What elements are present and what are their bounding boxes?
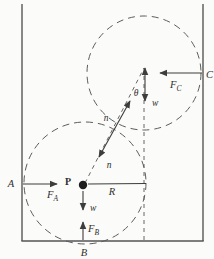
upper-weight-label: w	[152, 98, 159, 108]
normal-lower-label: n	[107, 160, 112, 170]
force-A-label: FA	[46, 189, 58, 203]
diagram-canvas: n n w θ FC C FA A P R w FB B	[0, 0, 214, 259]
lower-weight-label: w	[90, 203, 97, 213]
angle-theta-label: θ	[134, 88, 139, 98]
point-P-label: P	[65, 176, 71, 187]
point-A-label: A	[7, 178, 15, 189]
center-to-center-dashed-line	[85, 68, 144, 183]
force-B-label: FB	[87, 223, 99, 237]
force-A-subscript: A	[52, 194, 58, 203]
physics-diagram: n n w θ FC C FA A P R w FB B	[0, 0, 214, 259]
force-B-subscript: B	[94, 228, 99, 237]
radius-line	[88, 184, 146, 185]
point-B-label: B	[81, 247, 88, 258]
point-P-dot	[79, 181, 87, 189]
radius-label: R	[108, 186, 116, 197]
force-C-subscript: C	[176, 84, 182, 93]
normal-upper-label: n	[104, 113, 109, 123]
force-C-label: FC	[169, 79, 182, 93]
point-C-label: C	[206, 69, 214, 80]
normal-force-arrows	[99, 101, 130, 157]
